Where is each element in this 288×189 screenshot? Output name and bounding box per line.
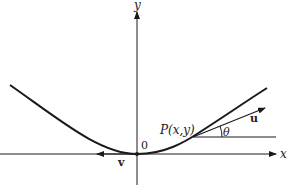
curve xyxy=(10,85,267,154)
diagram: y x 0 P(x,y) u θ v xyxy=(0,0,288,189)
origin-label: 0 xyxy=(141,139,148,152)
angle-label: θ xyxy=(223,126,230,139)
diagram-canvas: y x 0 P(x,y) u θ v xyxy=(0,0,288,189)
x-axis-label: x xyxy=(280,147,287,161)
origin-vector-label: v xyxy=(117,156,125,169)
tangent-vector-label: u xyxy=(250,112,258,125)
y-axis-label: y xyxy=(133,0,141,12)
origin-point xyxy=(135,152,139,156)
angle-arc xyxy=(220,126,222,137)
point-label: P(x,y) xyxy=(159,123,195,137)
